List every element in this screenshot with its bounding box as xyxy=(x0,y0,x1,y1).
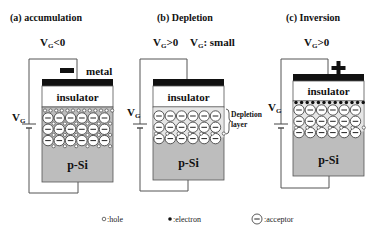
hole-icon xyxy=(109,133,112,136)
acceptor-icon xyxy=(294,116,304,126)
acceptor-icon xyxy=(199,111,209,121)
acceptor-icon xyxy=(176,111,186,121)
hole-icon xyxy=(362,126,365,129)
hole-icon xyxy=(55,109,58,112)
acceptor-icon xyxy=(328,116,338,126)
legend: :hole :electron :acceptor xyxy=(102,214,293,224)
acceptor-icon xyxy=(199,122,209,132)
hole-icon xyxy=(75,133,78,136)
acceptor-icon xyxy=(43,113,53,123)
acceptor-grid xyxy=(154,111,226,144)
hole-icon xyxy=(211,132,214,135)
panel-depletion: (b) Depletion VG>0 VG: small VG insulato… xyxy=(127,12,263,191)
acceptor-icon xyxy=(165,122,175,132)
acceptor-icon xyxy=(188,111,198,121)
hole-icon xyxy=(66,109,69,112)
depletion-label: Depletion xyxy=(231,110,263,119)
substrate-label: p-Si xyxy=(318,153,339,167)
hole-icon xyxy=(200,132,203,135)
mos-capacitor-diagram: (a) accumulation VG<0 VG metal insulator… xyxy=(0,0,377,235)
insulator-label: insulator xyxy=(56,91,98,103)
hole-icon xyxy=(94,109,97,112)
acceptor-icon xyxy=(88,135,98,145)
acceptor-icon xyxy=(54,135,64,145)
hole-icon xyxy=(52,122,55,125)
panel-inversion: (c) Inversion VG>0 VG insulator p-Si xyxy=(268,12,365,188)
acceptor-icon xyxy=(77,135,87,145)
panel-accumulation: (a) accumulation VG<0 VG metal insulator… xyxy=(10,12,114,193)
hole-icon xyxy=(49,109,52,112)
acceptor-icon xyxy=(65,135,75,145)
hole-icon xyxy=(188,132,191,135)
acceptor-icon xyxy=(54,113,64,123)
electron-icon xyxy=(334,101,337,104)
acceptor-icon xyxy=(65,113,75,123)
hole-icon xyxy=(97,122,100,125)
acceptor-icon xyxy=(339,105,349,115)
acceptor-icon xyxy=(99,135,109,145)
hole-icon xyxy=(60,109,63,112)
acceptor-icon xyxy=(65,124,75,134)
substrate-label: p-Si xyxy=(178,156,199,170)
acceptor-icon xyxy=(88,124,98,134)
gate-voltage-label: VG>0 xyxy=(153,36,179,50)
acceptor-icon xyxy=(99,124,109,134)
legend-item-electron: :electron xyxy=(168,215,201,224)
electron-icon xyxy=(328,101,331,104)
hole-icon xyxy=(71,109,74,112)
hole-icon xyxy=(97,133,100,136)
insulator-label: insulator xyxy=(307,85,349,97)
electron-icon xyxy=(300,101,303,104)
hole-icon xyxy=(86,122,89,125)
panel-title: (a) accumulation xyxy=(10,12,82,24)
acceptor-icon xyxy=(350,116,360,126)
negative-charge-icon xyxy=(60,68,74,73)
acceptor-icon xyxy=(43,135,53,145)
legend-item-acceptor: :acceptor xyxy=(252,214,294,224)
acceptor-icon xyxy=(77,113,87,123)
hole-icon xyxy=(306,126,309,129)
acceptor-icon xyxy=(88,113,98,123)
acceptor-icon xyxy=(328,105,338,115)
electron-icon xyxy=(339,101,342,104)
hole-icon xyxy=(88,109,91,112)
acceptor-icon xyxy=(43,124,53,134)
metal-layer xyxy=(293,74,364,81)
positive-charge-icon xyxy=(332,61,346,75)
hole-icon xyxy=(63,145,66,148)
acceptor-icon xyxy=(188,122,198,132)
hole-icon xyxy=(317,126,320,129)
insulator-label: insulator xyxy=(167,91,209,103)
hole-icon xyxy=(340,126,343,129)
hole-icon xyxy=(52,133,55,136)
panel-title: (c) Inversion xyxy=(286,12,341,24)
hole-icon xyxy=(328,126,331,129)
electron-icon xyxy=(311,101,314,104)
hole-icon xyxy=(102,217,106,221)
acceptor-icon xyxy=(294,105,304,115)
electron-icon xyxy=(350,101,353,104)
legend-label: :hole xyxy=(107,215,123,224)
electron-icon xyxy=(362,101,365,104)
acceptor-icon xyxy=(99,113,109,123)
gate-voltage-label: VG>0 xyxy=(304,36,330,50)
hole-icon xyxy=(83,109,86,112)
electron-icon xyxy=(317,101,320,104)
electron-icon xyxy=(322,101,325,104)
panel-title: (b) Depletion xyxy=(157,12,213,24)
side-vg-label: VG xyxy=(12,111,26,125)
electron-icon xyxy=(306,101,309,104)
side-vg-label: VG xyxy=(268,101,282,115)
metal-label: metal xyxy=(86,65,112,77)
hole-icon xyxy=(177,132,180,135)
acceptor-icon xyxy=(77,124,87,134)
electron-icon xyxy=(356,101,359,104)
side-vg-label: VG xyxy=(127,106,141,120)
metal-layer xyxy=(42,79,113,86)
acceptor-icon xyxy=(305,105,315,115)
hole-icon xyxy=(86,145,89,148)
electron-icon xyxy=(345,101,348,104)
acceptor-icon xyxy=(210,122,220,132)
acceptor-icon xyxy=(176,122,186,132)
substrate-label: p-Si xyxy=(67,158,88,172)
